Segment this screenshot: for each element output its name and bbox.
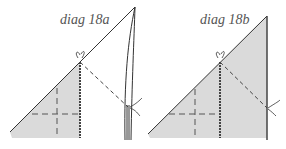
diagram-18a (10, 7, 142, 140)
knot-a1 (76, 51, 84, 58)
shaded-triangle-a (10, 62, 80, 138)
pole-a (125, 7, 135, 140)
knot-b1 (216, 51, 224, 58)
knot-b2 (268, 100, 280, 116)
diagram-canvas (0, 0, 286, 149)
dashed-cord-a (80, 62, 128, 107)
diagram-18b (148, 16, 280, 140)
